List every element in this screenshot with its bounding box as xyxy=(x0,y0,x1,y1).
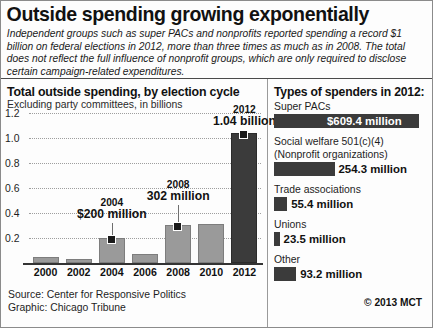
x-axis-label-2012: 2012 xyxy=(220,266,268,278)
callout-marker xyxy=(239,130,248,139)
spender-value: $609.4 million xyxy=(327,115,402,127)
spender-value: 55.4 million xyxy=(291,198,353,210)
spenders-title: Types of spenders in 2012: xyxy=(274,85,424,99)
source-line: Source: Center for Responsive Politics xyxy=(8,289,186,302)
chart-subtitle: Excluding party committees, in billions xyxy=(7,99,183,110)
infographic: Outside spending growing exponentially I… xyxy=(0,0,433,328)
chart-title: Total outside spending, by election cycl… xyxy=(7,85,240,99)
header: Outside spending growing exponentially I… xyxy=(1,1,432,77)
callout-value: $200 million xyxy=(52,208,172,221)
x-axis-baseline xyxy=(23,263,263,265)
spender-name: Social welfare 501(c)(4) xyxy=(274,136,384,147)
callout-2008: 2008302 million xyxy=(118,179,238,203)
gridline xyxy=(29,163,261,164)
spender-value: 254.3 million xyxy=(339,163,407,175)
spender-bar xyxy=(274,197,287,211)
callout-value: 302 million xyxy=(118,190,238,203)
page-title: Outside spending growing exponentially xyxy=(1,1,402,25)
spender-name: Trade associations xyxy=(274,184,361,195)
spender-name: Super PACs xyxy=(274,101,330,112)
y-axis-tick-label: 0.6 xyxy=(5,183,19,194)
header-deck: Independent groups such as super PACs an… xyxy=(1,25,419,77)
gridline xyxy=(29,138,261,139)
spender-value: 93.2 million xyxy=(300,268,362,280)
y-axis-tick-label: 0.4 xyxy=(5,208,19,219)
y-axis-tick-label: 1.2 xyxy=(5,108,19,119)
bar-2006 xyxy=(132,254,158,263)
gridline xyxy=(29,238,261,239)
source-block: Source: Center for Responsive Politics G… xyxy=(8,289,186,314)
spender-name: Other xyxy=(274,254,300,265)
bar-2010 xyxy=(198,224,224,263)
spender-name-line2: (Nonprofit organizations) xyxy=(274,149,388,160)
copyright: © 2013 MCT xyxy=(364,297,422,308)
callout-marker xyxy=(107,235,116,244)
spender-bar xyxy=(274,162,335,176)
callout-marker xyxy=(173,222,182,231)
header-divider xyxy=(1,78,432,79)
spender-bar xyxy=(274,267,296,281)
spender-bar xyxy=(274,232,280,246)
y-axis-tick-label: 0.2 xyxy=(5,233,19,244)
graphic-line: Graphic: Chicago Tribune xyxy=(8,302,186,315)
y-axis-tick-label: 0.8 xyxy=(5,158,19,169)
spender-value: 23.5 million xyxy=(284,233,346,245)
y-axis-tick-label: 1.0 xyxy=(5,133,19,144)
spender-name: Unions xyxy=(274,219,306,230)
